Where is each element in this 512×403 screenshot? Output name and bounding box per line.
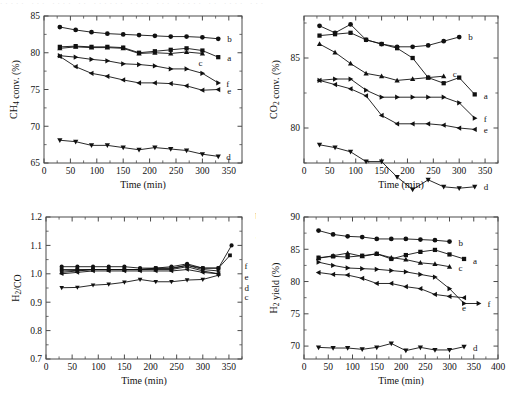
data-point-marker bbox=[462, 257, 466, 261]
series-line-e bbox=[320, 80, 475, 129]
x-tick-label: 150 bbox=[370, 362, 385, 372]
series-label-a: a bbox=[473, 256, 477, 266]
y-tick-label: 70 bbox=[291, 341, 301, 351]
data-point-marker bbox=[442, 81, 446, 85]
data-point-marker bbox=[433, 248, 437, 252]
x-axis-title: Time (min) bbox=[378, 375, 423, 387]
data-point-marker bbox=[330, 272, 335, 277]
y-tick-label: 80 bbox=[291, 277, 301, 287]
data-point-marker bbox=[168, 34, 173, 39]
data-point-marker bbox=[200, 35, 205, 40]
data-point-marker bbox=[403, 349, 408, 354]
series-line-b bbox=[319, 231, 450, 242]
y-tick-label: 90 bbox=[291, 212, 301, 222]
series-line-a bbox=[320, 33, 475, 95]
data-point-marker bbox=[379, 42, 384, 47]
x-tick-label: 200 bbox=[394, 362, 409, 372]
series-label-d: d bbox=[473, 343, 478, 353]
data-point-marker bbox=[216, 154, 221, 159]
data-point-marker bbox=[433, 238, 438, 243]
chart-ch4-conversion: 0501001502002503003506570758085Time (min… bbox=[0, 6, 256, 203]
data-point-marker bbox=[184, 34, 189, 39]
data-point-marker bbox=[184, 83, 189, 88]
series-line-e bbox=[60, 56, 218, 90]
x-tick-label: 200 bbox=[142, 166, 157, 176]
data-point-marker bbox=[441, 73, 446, 78]
x-tick-label: 250 bbox=[418, 362, 433, 372]
panel-h2-co-ratio: 0501001502002503003500.70.80.91.01.11.2T… bbox=[0, 203, 256, 403]
x-tick-label: 0 bbox=[42, 166, 47, 176]
x-axis-title: Time (min) bbox=[120, 179, 165, 191]
x-tick-label: 50 bbox=[67, 362, 77, 372]
data-point-marker bbox=[379, 113, 384, 118]
chart-co2-conversion: 0501001502002503003508085Time (min)CO2 c… bbox=[256, 6, 512, 203]
data-point-marker bbox=[331, 232, 336, 237]
panel-ch4-conversion: 0501001502002503003506570758085Time (min… bbox=[0, 6, 256, 203]
data-point-marker bbox=[457, 186, 462, 191]
figure-panel-grid: ····· ··· ···· ·· ······ ···· ··· ····· … bbox=[0, 0, 512, 403]
series-label-e: e bbox=[244, 272, 248, 282]
x-tick-label: 400 bbox=[491, 362, 506, 372]
data-point-marker bbox=[348, 31, 352, 35]
x-tick-label: 0 bbox=[44, 362, 49, 372]
data-point-marker bbox=[200, 88, 205, 93]
x-tick-label: 50 bbox=[66, 166, 76, 176]
data-point-marker bbox=[447, 239, 452, 244]
data-point-marker bbox=[364, 88, 369, 93]
data-point-marker bbox=[153, 63, 158, 68]
y-tick-label: 75 bbox=[291, 309, 301, 319]
x-tick-label: 100 bbox=[345, 362, 360, 372]
data-point-marker bbox=[403, 284, 408, 289]
data-point-marker bbox=[345, 250, 350, 255]
series-label-b: b bbox=[459, 238, 464, 248]
data-point-marker bbox=[348, 150, 353, 155]
data-point-marker bbox=[185, 66, 190, 71]
data-point-marker bbox=[404, 269, 409, 274]
data-point-marker bbox=[389, 268, 394, 273]
data-point-marker bbox=[215, 87, 220, 92]
series-label-d: d bbox=[484, 182, 489, 192]
data-point-marker bbox=[426, 95, 431, 100]
series-line-f bbox=[319, 262, 479, 303]
data-point-marker bbox=[317, 33, 321, 37]
y-tick-label: 0.7 bbox=[30, 354, 42, 364]
x-tick-label: 300 bbox=[196, 362, 211, 372]
series-label-f: f bbox=[488, 299, 491, 309]
series-label-a: a bbox=[484, 91, 488, 101]
series-label-b: b bbox=[227, 34, 232, 44]
data-point-marker bbox=[360, 235, 365, 240]
data-point-marker bbox=[374, 237, 379, 242]
data-point-marker bbox=[200, 71, 205, 76]
series-label-c: c bbox=[244, 292, 248, 302]
series-label-c: c bbox=[459, 263, 463, 273]
data-point-marker bbox=[346, 265, 351, 270]
data-point-marker bbox=[447, 294, 452, 299]
y-axis-title: CO2 conv. (%) bbox=[268, 60, 282, 119]
data-point-marker bbox=[216, 80, 221, 85]
data-point-marker bbox=[216, 36, 221, 41]
data-point-marker bbox=[360, 266, 365, 271]
y-tick-label: 85 bbox=[291, 245, 301, 255]
data-point-marker bbox=[332, 50, 337, 55]
data-point-marker bbox=[216, 55, 220, 59]
data-point-marker bbox=[75, 265, 79, 269]
x-tick-label: 300 bbox=[195, 166, 210, 176]
data-point-marker bbox=[105, 74, 110, 79]
data-point-marker bbox=[389, 237, 394, 242]
x-tick-label: 200 bbox=[400, 166, 415, 176]
data-point-marker bbox=[317, 41, 322, 46]
data-point-marker bbox=[404, 253, 408, 257]
y-tick-label: 1.1 bbox=[30, 241, 42, 251]
data-point-marker bbox=[426, 43, 431, 48]
data-point-marker bbox=[418, 237, 423, 242]
data-point-marker bbox=[169, 66, 174, 71]
data-point-marker bbox=[345, 234, 350, 239]
data-point-marker bbox=[136, 148, 141, 153]
x-tick-label: 50 bbox=[325, 166, 335, 176]
x-tick-label: 250 bbox=[170, 362, 185, 372]
data-point-marker bbox=[473, 116, 478, 121]
y-tick-label: 0.9 bbox=[30, 298, 42, 308]
data-point-marker bbox=[395, 95, 400, 100]
data-point-marker bbox=[364, 37, 369, 42]
data-point-marker bbox=[447, 252, 451, 256]
